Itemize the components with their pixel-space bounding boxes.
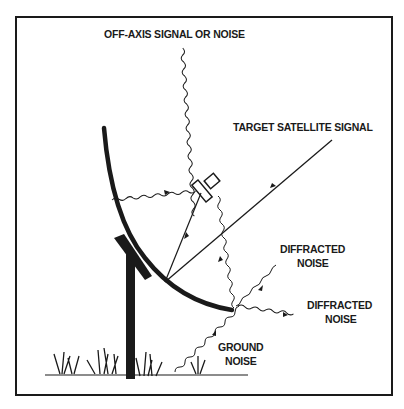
diffracted-noise-wave-1	[236, 265, 276, 306]
feed-horn-icon	[192, 173, 220, 202]
label-diffracted-noise-2-line1: DIFFRACTED	[307, 299, 373, 311]
label-ground-noise-line2: NOISE	[225, 355, 257, 367]
label-diffracted-noise-2-line2: NOISE	[325, 313, 357, 325]
label-target-satellite-signal: TARGET SATELLITE SIGNAL	[233, 121, 373, 133]
label-ground-noise-line1: GROUND	[218, 341, 264, 353]
diagram-canvas: OFF-AXIS SIGNAL OR NOISE TARGET SATELLIT…	[0, 0, 404, 409]
off-axis-reflected-wave	[112, 190, 196, 202]
dish-pole	[126, 252, 135, 379]
dish-reflector	[104, 128, 232, 310]
label-diffracted-noise-1-line1: DIFFRACTED	[280, 243, 346, 255]
frame-border	[16, 17, 392, 395]
edge-to-feed-wave	[218, 196, 235, 308]
label-off-axis: OFF-AXIS SIGNAL OR NOISE	[104, 28, 245, 40]
label-diffracted-noise-1-line2: NOISE	[297, 257, 329, 269]
